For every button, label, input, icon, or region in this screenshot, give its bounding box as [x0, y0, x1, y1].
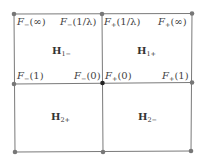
label-arg: (1/λ) — [72, 16, 96, 27]
label-f: F — [17, 70, 24, 81]
label-f: F — [60, 16, 67, 27]
label-arg: (∞) — [170, 16, 186, 27]
vertex-dot-bottom-right — [189, 149, 194, 154]
label-f-minus-infinity: F−(∞) — [17, 17, 46, 29]
vertex-dot-bottom-middle — [101, 150, 106, 155]
label-f-plus-inv-lambda: F+(1/λ) — [104, 17, 140, 29]
label-f: F — [17, 16, 24, 27]
region-sub: 1− — [61, 50, 71, 58]
label-arg: (∞) — [29, 16, 45, 27]
label-arg: (0) — [117, 70, 131, 81]
label-f: F — [104, 16, 111, 27]
label-f-plus-zero: F+(0) — [105, 71, 132, 83]
region-sub: 2+ — [60, 116, 70, 124]
label-f-minus-one: F−(1) — [17, 71, 44, 83]
region-h2-minus: H2− — [138, 112, 157, 124]
vertex-dot-middle-right — [190, 80, 195, 85]
label-arg: (1) — [174, 70, 188, 81]
region-sub: 1+ — [146, 50, 156, 58]
label-f-minus-zero: F−(0) — [74, 71, 101, 83]
region-h1-plus: H1+ — [137, 46, 156, 58]
label-arg: (1/λ) — [116, 16, 140, 27]
label-f: F — [74, 70, 81, 81]
label-arg: (1) — [29, 70, 43, 81]
vertex-dot-top-right — [190, 11, 195, 16]
label-arg: (0) — [86, 70, 100, 81]
vertex-dot-middle-left — [12, 82, 17, 87]
region-h1-minus: H1− — [52, 46, 71, 58]
label-f: F — [105, 70, 112, 81]
label-f-minus-inv-lambda: F−(1/λ) — [60, 17, 96, 29]
label-f-plus-one: F+(1) — [162, 71, 189, 83]
region-sub: 2− — [147, 116, 157, 124]
vertex-dot-top-left — [12, 12, 17, 17]
region-h2-plus: H2+ — [51, 112, 70, 124]
label-f: F — [162, 70, 169, 81]
vertex-dot-bottom-left — [13, 150, 18, 155]
label-f: F — [158, 16, 165, 27]
label-f-plus-infinity: F+(∞) — [158, 17, 187, 29]
